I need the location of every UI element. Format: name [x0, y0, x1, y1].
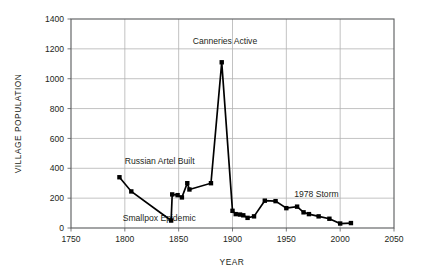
data-point-marker	[241, 213, 245, 217]
annotation-russian-artel-built: Russian Artel Built	[125, 156, 195, 166]
y-tick-label: 600	[50, 134, 65, 144]
annotation-1978-storm: 1978 Storm	[294, 189, 338, 199]
x-tick-label: 2000	[331, 234, 350, 244]
data-point-marker	[169, 218, 173, 222]
y-axis-title: VILLAGE POPULATION	[13, 74, 23, 174]
data-point-marker	[220, 60, 224, 64]
y-tick-label: 200	[50, 193, 65, 203]
data-point-marker	[170, 192, 174, 196]
data-point-marker	[209, 181, 213, 185]
x-tick-label: 1800	[115, 234, 134, 244]
data-point-marker	[263, 198, 267, 202]
population-chart: 0200400600800100012001400 17501800185019…	[0, 0, 421, 276]
data-point-marker	[180, 195, 184, 199]
y-tick-label: 400	[50, 163, 65, 173]
data-point-marker	[273, 199, 277, 203]
data-point-marker	[349, 221, 353, 225]
x-tick-label: 1950	[277, 234, 296, 244]
data-point-marker	[234, 212, 238, 216]
data-point-marker	[175, 193, 179, 197]
x-tick-label: 2050	[384, 234, 403, 244]
annotation-canneries-active: Canneries Active	[193, 36, 258, 46]
data-point-marker	[284, 206, 288, 210]
x-tick-label: 1900	[223, 234, 242, 244]
data-point-marker	[185, 181, 189, 185]
data-point-marker	[316, 214, 320, 218]
y-tick-label: 1200	[45, 44, 64, 54]
data-point-marker	[117, 175, 121, 179]
y-tick-label: 1400	[45, 14, 64, 24]
data-point-marker	[338, 221, 342, 225]
x-tick-label: 1850	[169, 234, 188, 244]
y-tick-label: 0	[59, 223, 64, 233]
y-tick-label: 800	[50, 104, 65, 114]
data-point-marker	[301, 210, 305, 214]
x-tick-label: 1750	[61, 234, 80, 244]
x-axis-title: YEAR	[220, 257, 245, 267]
data-point-marker	[252, 214, 256, 218]
y-tick-label: 1000	[45, 74, 64, 84]
data-point-marker	[187, 187, 191, 191]
data-point-marker	[129, 189, 133, 193]
chart-canvas: 0200400600800100012001400 17501800185019…	[0, 0, 421, 276]
data-point-marker	[307, 212, 311, 216]
data-point-marker	[327, 217, 331, 221]
data-point-marker	[245, 216, 249, 220]
data-point-marker	[295, 204, 299, 208]
annotation-smallpox-epidemic: Smallpox Epidemic	[123, 213, 197, 223]
